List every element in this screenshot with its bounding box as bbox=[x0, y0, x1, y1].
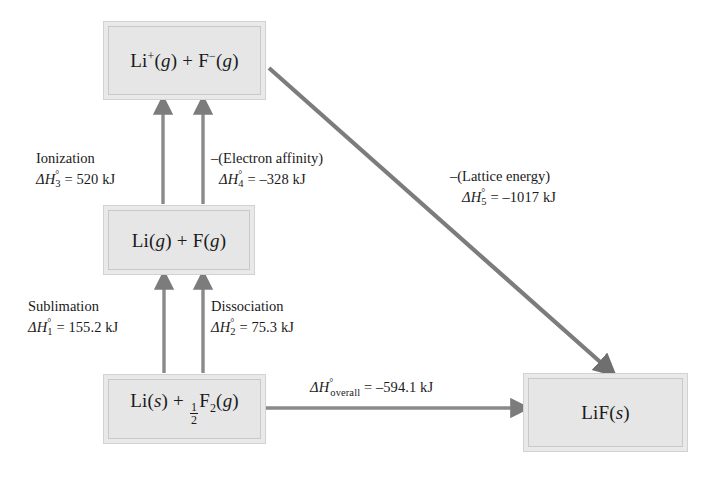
annotation-electron-affinity-value: ΔH°4 = –328 kJ bbox=[211, 169, 323, 190]
formula-li: Li bbox=[130, 390, 147, 411]
species-label-product: LiF(s) bbox=[581, 403, 630, 422]
state-solid: s bbox=[616, 402, 624, 423]
annotation-ionization: Ionization ΔH°3 = 520 kJ bbox=[36, 148, 115, 189]
state-solid: s bbox=[154, 390, 162, 411]
state-gas: g bbox=[210, 230, 220, 251]
annotation-sublimation-label: Sublimation bbox=[28, 296, 118, 317]
formula-lif: LiF bbox=[581, 402, 609, 423]
species-box-product: LiF(s) bbox=[523, 373, 688, 452]
formula-f2-subscript: 2 bbox=[210, 401, 216, 415]
annotation-overall: ΔH°overall = –594.1 kJ bbox=[310, 377, 433, 398]
species-box-reactants: Li(s) + 12F2(g) bbox=[103, 374, 266, 444]
annotation-lattice-energy-value: ΔH°5 = –1017 kJ bbox=[450, 187, 556, 208]
state-gas: g bbox=[161, 50, 171, 71]
plus-sign: + bbox=[177, 230, 188, 251]
species-box-atoms-gas: Li(g) + F(g) bbox=[103, 205, 255, 275]
fraction-one-half: 12 bbox=[190, 401, 198, 426]
annotation-ionization-value: ΔH°3 = 520 kJ bbox=[36, 169, 115, 190]
species-label-atoms-gas: Li(g) + F(g) bbox=[132, 231, 226, 250]
annotation-electron-affinity: –(Electron affinity) ΔH°4 = –328 kJ bbox=[211, 148, 323, 189]
formula-li: Li bbox=[132, 230, 149, 251]
annotation-lattice-energy-label: –(Lattice energy) bbox=[450, 166, 556, 187]
fraction-denominator: 2 bbox=[190, 414, 198, 426]
species-label-ions-gas: Li+(g) + F−(g) bbox=[130, 51, 238, 70]
formula-f2: F bbox=[199, 390, 210, 411]
fraction-numerator: 1 bbox=[190, 401, 198, 414]
state-gas: g bbox=[156, 230, 166, 251]
state-gas: g bbox=[223, 390, 233, 411]
annotation-overall-value: ΔH°overall = –594.1 kJ bbox=[310, 377, 433, 398]
formula-f-anion: F bbox=[198, 50, 209, 71]
annotation-dissociation-label: Dissociation bbox=[211, 296, 294, 317]
arrow-lattice-energy bbox=[269, 68, 607, 368]
annotation-ionization-label: Ionization bbox=[36, 148, 115, 169]
annotation-dissociation: Dissociation ΔH°2 = 75.3 kJ bbox=[211, 296, 294, 337]
annotation-sublimation-value: ΔH°1 = 155.2 kJ bbox=[28, 317, 118, 338]
annotation-lattice-energy: –(Lattice energy) ΔH°5 = –1017 kJ bbox=[450, 166, 556, 207]
born-haber-cycle-diagram: Li+(g) + F−(g) Li(g) + F(g) Li(s) + 12F2… bbox=[0, 0, 720, 477]
annotation-sublimation: Sublimation ΔH°1 = 155.2 kJ bbox=[28, 296, 118, 337]
state-gas: g bbox=[222, 50, 232, 71]
species-box-ions-gas: Li+(g) + F−(g) bbox=[103, 21, 266, 100]
annotation-electron-affinity-label: –(Electron affinity) bbox=[211, 148, 323, 169]
annotation-dissociation-value: ΔH°2 = 75.3 kJ bbox=[211, 317, 294, 338]
formula-li-cation: Li bbox=[130, 50, 147, 71]
plus-sign: + bbox=[182, 50, 193, 71]
plus-sign: + bbox=[173, 390, 184, 411]
formula-f: F bbox=[193, 230, 204, 251]
species-label-reactants: Li(s) + 12F2(g) bbox=[130, 391, 239, 426]
